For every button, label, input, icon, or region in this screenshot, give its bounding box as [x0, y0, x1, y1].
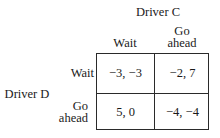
column-strategy-wait: Wait: [100, 37, 150, 50]
row-strategy-go-ahead-line2: ahead: [56, 112, 88, 125]
row-player-label: Driver D: [2, 88, 52, 101]
row-strategy-wait: Wait: [56, 67, 94, 80]
payoff-cell-goahead-goahead: −4, −4: [154, 93, 211, 132]
payoff-cell-wait-wait: −3, −3: [97, 54, 154, 93]
column-player-label: Driver C: [128, 6, 188, 19]
payoff-cell-goahead-wait: 5, 0: [97, 93, 154, 132]
payoff-grid: −3, −3 −2, 7 5, 0 −4, −4: [96, 53, 209, 130]
column-strategy-go-ahead-line2: ahead: [157, 37, 207, 50]
payoff-cell-wait-goahead: −2, 7: [154, 54, 211, 93]
